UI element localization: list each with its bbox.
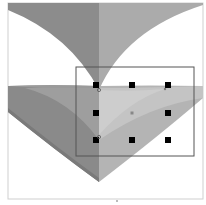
handle-top-left[interactable] [93, 82, 99, 88]
handle-middle-left[interactable] [93, 110, 99, 116]
rotation-center-point[interactable] [131, 112, 134, 115]
handle-top-right[interactable] [165, 82, 171, 88]
handle-bottom-right[interactable] [165, 137, 171, 143]
handle-bottom-center[interactable] [129, 137, 135, 143]
canvas-center-marker [116, 200, 118, 202]
handle-top-center[interactable] [129, 82, 135, 88]
handle-middle-right[interactable] [165, 110, 171, 116]
drawing-canvas[interactable] [0, 0, 206, 205]
anchor-point[interactable] [164, 88, 166, 90]
